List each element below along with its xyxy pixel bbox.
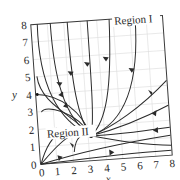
region-2-label: Region II xyxy=(47,125,90,140)
region-1-label: Region I xyxy=(114,12,153,27)
svg-text:2: 2 xyxy=(28,124,34,136)
svg-text:7: 7 xyxy=(153,158,160,170)
svg-text:6: 6 xyxy=(137,159,144,171)
svg-text:5: 5 xyxy=(120,160,127,172)
x-axis-label: x xyxy=(104,172,111,180)
svg-text:0: 0 xyxy=(38,166,45,178)
svg-text:2: 2 xyxy=(71,164,77,176)
svg-text:1: 1 xyxy=(54,165,60,177)
svg-text:0: 0 xyxy=(31,159,38,171)
svg-text:8: 8 xyxy=(169,157,176,169)
svg-text:4: 4 xyxy=(26,89,33,101)
svg-text:7: 7 xyxy=(22,36,29,48)
grid xyxy=(31,15,172,164)
svg-text:8: 8 xyxy=(21,19,28,31)
svg-text:3: 3 xyxy=(87,163,94,175)
y-axis-label: y xyxy=(11,88,18,100)
phase-portrait: 0 1 2 3 4 5 6 7 8 0 1 2 3 4 5 6 7 8 x y … xyxy=(0,0,180,180)
svg-text:5: 5 xyxy=(25,71,32,83)
svg-text:3: 3 xyxy=(27,106,34,118)
svg-text:6: 6 xyxy=(23,54,30,66)
svg-text:1: 1 xyxy=(29,141,35,153)
